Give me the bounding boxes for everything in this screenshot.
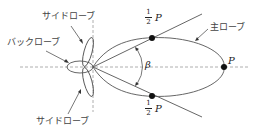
side-lobe-bottom-shape xyxy=(80,66,95,97)
half-power-label-top: 1 2 P xyxy=(144,9,168,31)
half-power-label-bottom: 1 2 P xyxy=(144,100,168,122)
antenna-radiation-pattern-diagram: サイドローブ バックローブ サイドローブ 主ローブ β P 1 2 P 1 2 … xyxy=(0,0,255,129)
pattern-graphic xyxy=(0,0,255,129)
side-lobe-bottom-arrow xyxy=(68,91,80,114)
main-lobe-arrow xyxy=(197,29,208,39)
peak-label: P xyxy=(228,56,235,66)
side-lobe-bottom-label: サイドローブ xyxy=(36,117,89,126)
peak-point xyxy=(221,64,227,70)
back-lobe-arrow xyxy=(46,51,67,62)
back-lobe-label: バックローブ xyxy=(7,38,60,47)
beta-label: β xyxy=(145,60,151,70)
half-power-point-top xyxy=(149,35,155,41)
main-lobe-label: 主ローブ xyxy=(210,23,245,32)
side-lobe-top-label: サイドローブ xyxy=(42,12,95,21)
side-lobe-top-shape xyxy=(80,36,95,67)
beta-arc xyxy=(137,49,143,84)
